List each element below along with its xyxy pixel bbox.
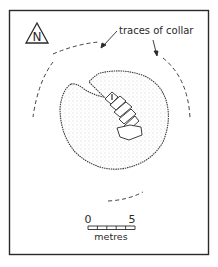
- north-arrow-icon: N: [26, 23, 48, 44]
- scale-start-label: 0: [85, 213, 92, 226]
- scale-bar: 0 5 metres: [85, 213, 136, 242]
- site-plan-diagram: N traces of collar 0 5: [0, 0, 218, 267]
- scale-end-label: 5: [129, 213, 136, 226]
- north-label: N: [33, 30, 42, 44]
- scale-unit-label: metres: [94, 231, 127, 242]
- mound-feature: [60, 71, 168, 169]
- collar-annotation-label: traces of collar: [119, 25, 194, 36]
